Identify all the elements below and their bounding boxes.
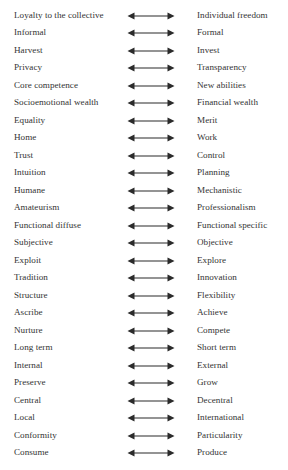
dimension-row: HumaneMechanistic <box>0 182 288 200</box>
dimension-row: ExploitExplore <box>0 252 288 270</box>
pole-right-label: Innovation <box>184 273 274 283</box>
double-headed-arrow-icon <box>118 203 184 213</box>
double-headed-arrow-icon <box>118 431 184 441</box>
pole-left-label: Central <box>0 396 118 406</box>
double-headed-arrow-icon <box>118 46 184 56</box>
pole-right-label: External <box>184 361 274 371</box>
pole-left-label: Structure <box>0 291 118 301</box>
pole-right-label: Control <box>184 151 274 161</box>
pole-right-label: Produce <box>184 448 274 458</box>
double-headed-arrow-icon <box>118 221 184 231</box>
pole-right-label: Grow <box>184 378 274 388</box>
double-headed-arrow-icon <box>118 256 184 266</box>
double-headed-arrow-icon <box>118 133 184 143</box>
double-headed-arrow-icon <box>118 98 184 108</box>
pole-left-label: Home <box>0 133 118 143</box>
double-headed-arrow-icon <box>118 11 184 21</box>
pole-left-label: Intuition <box>0 168 118 178</box>
pole-left-label: Harvest <box>0 46 118 56</box>
pole-left-label: Exploit <box>0 256 118 266</box>
pole-left-label: Nurture <box>0 326 118 336</box>
pole-right-label: Transparency <box>184 63 274 73</box>
dimension-row: EqualityMerit <box>0 112 288 130</box>
pole-right-label: International <box>184 413 274 423</box>
pole-right-label: Planning <box>184 168 274 178</box>
pole-left-label: Conformity <box>0 431 118 441</box>
pole-right-label: Professionalism <box>184 203 274 213</box>
dimension-row: AmateurismProfessionalism <box>0 200 288 218</box>
pole-right-label: Explore <box>184 256 274 266</box>
double-headed-arrow-icon <box>118 238 184 248</box>
pole-right-label: Compete <box>184 326 274 336</box>
dimension-row: PreserveGrow <box>0 375 288 393</box>
double-headed-arrow-icon <box>118 326 184 336</box>
dimension-row: AscribeAchieve <box>0 305 288 323</box>
pole-left-label: Trust <box>0 151 118 161</box>
pole-right-label: Financial wealth <box>184 98 274 108</box>
double-headed-arrow-icon <box>118 448 184 458</box>
dimension-row: Socioemotional wealthFinancial wealth <box>0 95 288 113</box>
pole-right-label: Short term <box>184 343 274 353</box>
dimension-row: Core competenceNew abilities <box>0 77 288 95</box>
pole-left-label: Humane <box>0 186 118 196</box>
dimension-row: TrustControl <box>0 147 288 165</box>
double-headed-arrow-icon <box>118 63 184 73</box>
pole-right-label: Achieve <box>184 308 274 318</box>
dimension-row: ConsumeProduce <box>0 445 288 463</box>
pole-left-label: Socioemotional wealth <box>0 98 118 108</box>
double-headed-arrow-icon <box>118 81 184 91</box>
pole-left-label: Internal <box>0 361 118 371</box>
pole-left-label: Equality <box>0 116 118 126</box>
dimension-row: IntuitionPlanning <box>0 165 288 183</box>
double-headed-arrow-icon <box>118 343 184 353</box>
double-headed-arrow-icon <box>118 396 184 406</box>
pole-right-label: Particularity <box>184 431 274 441</box>
double-headed-arrow-icon <box>118 168 184 178</box>
double-headed-arrow-icon <box>118 273 184 283</box>
pole-right-label: Work <box>184 133 274 143</box>
dimension-row: HomeWork <box>0 130 288 148</box>
dimension-row: HarvestInvest <box>0 42 288 60</box>
pole-left-label: Subjective <box>0 238 118 248</box>
pole-left-label: Amateurism <box>0 203 118 213</box>
dimension-row: InternalExternal <box>0 357 288 375</box>
pole-right-label: Mechanistic <box>184 186 274 196</box>
pole-left-label: Long term <box>0 343 118 353</box>
pole-left-label: Tradition <box>0 273 118 283</box>
pole-right-label: New abilities <box>184 81 274 91</box>
value-dimensions-diagram: Loyalty to the collectiveIndividual free… <box>0 0 288 470</box>
pole-left-label: Loyalty to the collective <box>0 11 118 21</box>
dimension-row: ConformityParticularity <box>0 427 288 445</box>
pole-left-label: Privacy <box>0 63 118 73</box>
pole-left-label: Informal <box>0 28 118 38</box>
double-headed-arrow-icon <box>118 378 184 388</box>
pole-left-label: Functional diffuse <box>0 221 118 231</box>
pole-right-label: Functional specific <box>184 221 274 231</box>
double-headed-arrow-icon <box>118 413 184 423</box>
dimension-row: CentralDecentral <box>0 392 288 410</box>
dimension-row: PrivacyTransparency <box>0 60 288 78</box>
pole-right-label: Individual freedom <box>184 11 274 21</box>
dimension-row: LocalInternational <box>0 410 288 428</box>
pole-right-label: Formal <box>184 28 274 38</box>
double-headed-arrow-icon <box>118 308 184 318</box>
dimension-row: NurtureCompete <box>0 322 288 340</box>
dimension-row: Functional diffuseFunctional specific <box>0 217 288 235</box>
dimension-row: Loyalty to the collectiveIndividual free… <box>0 7 288 25</box>
pole-left-label: Ascribe <box>0 308 118 318</box>
pole-left-label: Local <box>0 413 118 423</box>
double-headed-arrow-icon <box>118 361 184 371</box>
double-headed-arrow-icon <box>118 291 184 301</box>
pole-right-label: Flexibility <box>184 291 274 301</box>
double-headed-arrow-icon <box>118 151 184 161</box>
pole-right-label: Merit <box>184 116 274 126</box>
double-headed-arrow-icon <box>118 186 184 196</box>
dimension-row: SubjectiveObjective <box>0 235 288 253</box>
dimension-row: StructureFlexibility <box>0 287 288 305</box>
pole-right-label: Objective <box>184 238 274 248</box>
double-headed-arrow-icon <box>118 28 184 38</box>
pole-left-label: Preserve <box>0 378 118 388</box>
pole-left-label: Core competence <box>0 81 118 91</box>
pole-left-label: Consume <box>0 448 118 458</box>
dimension-row: TraditionInnovation <box>0 270 288 288</box>
